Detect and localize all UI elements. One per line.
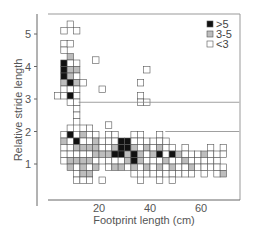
heatmap-cell: [86, 132, 92, 139]
heatmap-cell: [156, 164, 162, 171]
heatmap-cell: [105, 151, 111, 158]
heatmap-cell: [182, 158, 188, 165]
heatmap-cell: [67, 132, 73, 139]
heatmap-cell: [188, 171, 194, 178]
heatmap-cell: [74, 164, 80, 171]
heatmap-cell: [86, 164, 92, 171]
heatmap-cell: [61, 86, 67, 93]
heatmap-cell: [74, 151, 80, 158]
heatmap-cell: [99, 151, 105, 158]
heatmap-cell: [207, 164, 213, 171]
heatmap-cell: [144, 145, 150, 152]
heatmap-cell: [163, 138, 169, 145]
heatmap-cell: [99, 145, 105, 152]
heatmap-cell: [214, 171, 220, 178]
heatmap-cell: [131, 171, 137, 178]
heatmap-cell: [67, 60, 73, 67]
heatmap-cell: [169, 164, 175, 171]
heatmap-cell: [176, 164, 182, 171]
heatmap-cell: [214, 164, 220, 171]
heatmap-cell: [131, 138, 137, 145]
heatmap-cell: [163, 151, 169, 158]
heatmap-cell: [220, 145, 226, 152]
heatmap-cell: [137, 80, 143, 87]
heatmap-cell: [150, 164, 156, 171]
heatmap-cell: [156, 138, 162, 145]
heatmap-cell: [74, 158, 80, 165]
x-axis-ticks: 204060: [93, 202, 207, 214]
heatmap-cell: [137, 145, 143, 152]
heatmap-cell: [125, 164, 131, 171]
heatmap-cell: [74, 86, 80, 93]
heatmap-cell: [67, 158, 73, 165]
heatmap-cell: [67, 145, 73, 152]
heatmap-cell: [125, 158, 131, 165]
heatmap-cell: [80, 164, 86, 171]
heatmap-cell: [214, 158, 220, 165]
heatmap-cell: [144, 171, 150, 178]
heatmap-cell: [61, 138, 67, 145]
heatmap-cell: [220, 151, 226, 158]
heatmap-cell: [80, 177, 86, 184]
heatmap-cell: [150, 171, 156, 178]
y-tick-label: 1: [25, 158, 31, 170]
heatmap-cell: [207, 158, 213, 165]
heatmap-cell: [220, 171, 226, 178]
heatmap-cell: [61, 41, 67, 48]
heatmap-cell: [74, 73, 80, 80]
heatmap-cell: [201, 151, 207, 158]
heatmap-cell: [182, 151, 188, 158]
heatmap-cell: [125, 145, 131, 152]
heatmap-cell: [67, 125, 73, 132]
heatmap-cell: [195, 164, 201, 171]
heatmap-cell: [67, 73, 73, 80]
heatmap-cell: [67, 99, 73, 106]
x-tick-label: 40: [144, 202, 156, 214]
heatmap-cell: [99, 138, 105, 145]
heatmap-cell: [105, 132, 111, 139]
heatmap-chart: 12345 204060 Footprint length (cm) Relat…: [0, 0, 253, 232]
heatmap-cell: [74, 171, 80, 178]
heatmap-cell: [74, 112, 80, 119]
x-tick-label: 60: [195, 202, 207, 214]
heatmap-cell: [61, 132, 67, 139]
heatmap-cell: [99, 177, 105, 184]
heatmap-cell: [112, 164, 118, 171]
heatmap-cell: [86, 138, 92, 145]
y-tick-label: 3: [25, 93, 31, 105]
heatmap-cell: [61, 28, 67, 35]
legend-swatch: [207, 41, 213, 47]
heatmap-cell: [201, 158, 207, 165]
heatmap-cell: [176, 171, 182, 178]
heatmap-cell: [156, 132, 162, 139]
heatmap-cell: [93, 57, 99, 64]
heatmap-cell: [105, 164, 111, 171]
heatmap-cell: [220, 164, 226, 171]
heatmap-cell: [169, 158, 175, 165]
heatmap-cell: [137, 132, 143, 139]
heatmap-cell: [86, 171, 92, 178]
heatmap-cell: [61, 67, 67, 74]
heatmap-cell: [118, 151, 124, 158]
heatmap-cell: [169, 145, 175, 152]
heatmap-cell: [150, 138, 156, 145]
heatmap-cell: [93, 158, 99, 165]
heatmap-cell: [188, 164, 194, 171]
heatmap-cell: [80, 171, 86, 178]
heatmap-cell: [188, 151, 194, 158]
heatmap-cell: [131, 151, 137, 158]
heatmap-cell: [61, 145, 67, 152]
heatmap-cell: [118, 158, 124, 165]
heatmap-cell: [67, 21, 73, 28]
heatmap-cell: [112, 132, 118, 139]
heatmap-cell: [67, 164, 73, 171]
heatmap-cell: [150, 158, 156, 165]
heatmap-cell: [163, 145, 169, 152]
heatmap-cell: [169, 171, 175, 178]
heatmap-cell: [144, 138, 150, 145]
heatmap-cell: [169, 177, 175, 184]
heatmap-cell: [112, 158, 118, 165]
heatmap-cell: [176, 158, 182, 165]
heatmap-cell: [150, 145, 156, 152]
heatmap-cell: [99, 158, 105, 165]
